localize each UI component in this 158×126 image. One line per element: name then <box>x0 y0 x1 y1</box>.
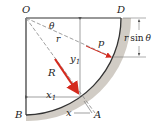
label-D: D <box>116 4 125 15</box>
curved-surface-shading <box>26 18 131 121</box>
label-O: O <box>22 4 30 15</box>
label-theta: θ <box>49 21 55 31</box>
resultant-arrow-R <box>55 59 78 93</box>
label-B: B <box>14 109 22 120</box>
label-r-sin-theta: rsinθ <box>124 33 152 43</box>
label-p: p <box>98 37 105 48</box>
label-r: r <box>56 34 61 44</box>
label-y1: y1 <box>69 53 80 66</box>
curved-surface-DB <box>26 18 121 115</box>
label-x1: x1 <box>46 89 56 102</box>
label-x: x <box>66 107 72 118</box>
label-A: A <box>93 109 101 120</box>
label-R: R <box>47 67 56 78</box>
quarter-circle-diagram: O D B A θ r p R y1 x1 x rsinθ <box>0 0 158 126</box>
